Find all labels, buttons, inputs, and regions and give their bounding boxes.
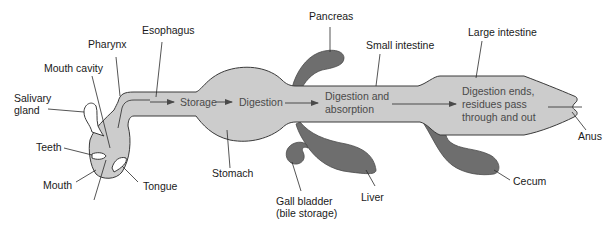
salivary-gland-shape <box>84 103 104 136</box>
leader-mouth <box>76 170 96 182</box>
label-esophagus: Esophagus <box>142 24 195 36</box>
gall-bladder-shape <box>286 142 308 164</box>
label-small-intestine: Small intestine <box>366 39 434 51</box>
stage-digestion: Digestion <box>239 96 283 108</box>
label-mouth-cavity: Mouth cavity <box>44 62 104 74</box>
leader-anus <box>572 112 586 130</box>
leader-esophagus <box>156 42 162 97</box>
leader-teeth <box>64 148 92 155</box>
label-cecum: Cecum <box>513 175 547 187</box>
stage-ends-line3: through and out <box>462 111 536 123</box>
leader-salivary-gland <box>48 109 84 112</box>
leader-gall-bladder <box>292 162 301 191</box>
label-salivary-gland-line1: Salivary <box>14 92 52 104</box>
stage-storage: Storage <box>180 96 217 108</box>
label-gall-bladder-line2: (bile storage) <box>276 207 337 219</box>
leader-cecum <box>494 170 510 180</box>
teeth-shape <box>92 153 106 160</box>
label-gall-bladder-line1: Gall bladder <box>276 195 333 207</box>
label-pharynx: Pharynx <box>88 38 127 50</box>
label-large-intestine: Large intestine <box>468 26 537 38</box>
digestive-tract-diagram: Storage Digestion Digestion and absorpti… <box>0 0 611 232</box>
leader-large-intestine <box>476 41 482 78</box>
label-tongue: Tongue <box>143 180 178 192</box>
label-salivary-gland-line2: gland <box>14 104 40 116</box>
label-stomach: Stomach <box>212 167 254 179</box>
label-mouth: Mouth <box>43 179 72 191</box>
label-teeth: Teeth <box>36 141 62 153</box>
leader-tongue <box>122 166 138 182</box>
label-anus: Anus <box>578 130 602 142</box>
label-liver: Liver <box>361 191 384 203</box>
stage-ends-line2: residues pass <box>462 98 527 110</box>
stage-digestion-absorption-line2: absorption <box>325 103 374 115</box>
stage-digestion-absorption-line1: Digestion and <box>325 90 389 102</box>
leader-pharynx <box>116 57 120 96</box>
label-pancreas: Pancreas <box>309 10 353 22</box>
leader-small-intestine <box>376 54 380 86</box>
stage-ends-line1: Digestion ends, <box>462 85 534 97</box>
